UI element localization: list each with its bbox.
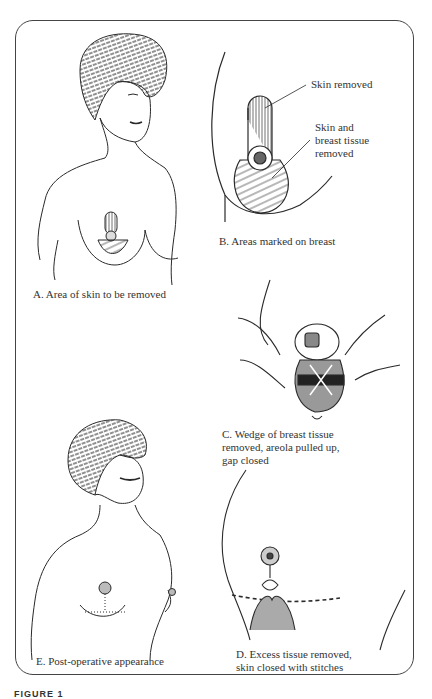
annotation-removed: removed [315, 147, 353, 160]
annotation-skin-removed: Skin removed [311, 78, 372, 91]
panel-c-diagram [238, 280, 400, 419]
caption-panel-c-line2: removed, areola pulled up, [222, 441, 340, 454]
caption-panel-a: A. Area of skin to be removed [33, 288, 166, 301]
caption-panel-b: B. Areas marked on breast [219, 235, 335, 248]
caption-panel-d-line2: skin closed with stitches [236, 661, 343, 674]
panel-a-figure [38, 34, 178, 285]
panel-e-figure [31, 420, 175, 660]
figure-number: FIGURE 1 [14, 689, 64, 699]
caption-panel-c-line1: C. Wedge of breast tissue [222, 428, 334, 441]
caption-panel-e: E. Post-operative appearance [36, 655, 164, 668]
annotation-skin-and: Skin and [315, 121, 354, 134]
caption-panel-d-line1: D. Excess tissue removed, [236, 648, 352, 661]
panel-d-diagram [222, 470, 405, 650]
annotation-breast-tissue: breast tissue [315, 134, 369, 147]
caption-panel-c-line3: gap closed [222, 454, 269, 467]
